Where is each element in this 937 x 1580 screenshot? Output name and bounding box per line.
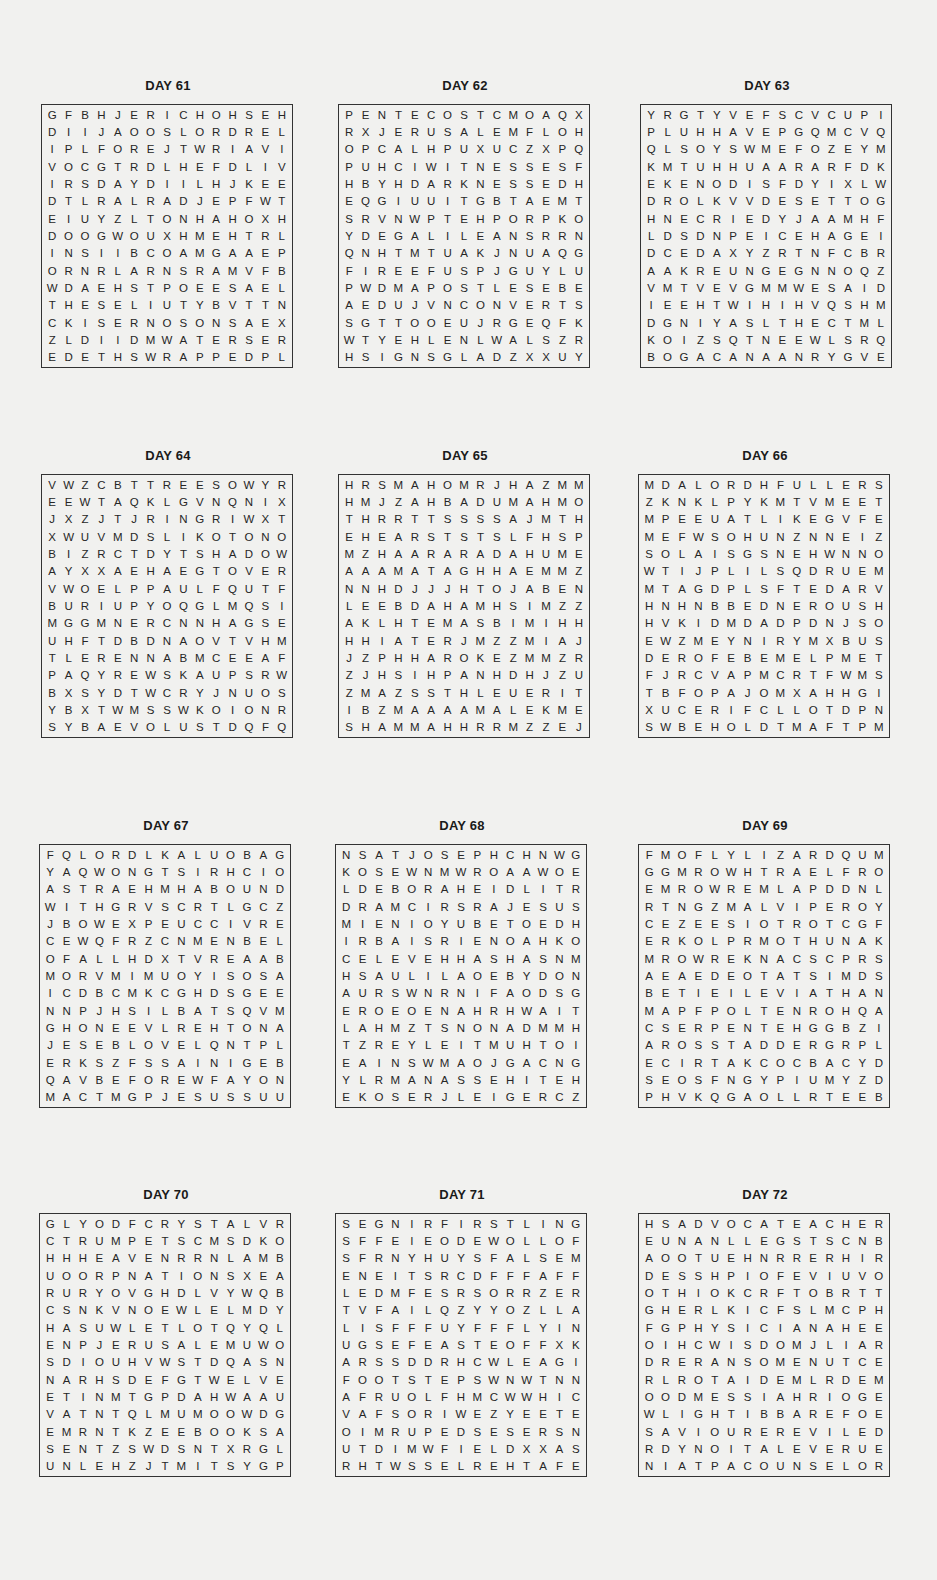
grid-letter: S bbox=[854, 615, 870, 632]
grid-letter: I bbox=[521, 597, 537, 614]
grid-letter: A bbox=[756, 615, 772, 632]
grid-letter: P bbox=[674, 1319, 690, 1336]
grid-letter: Q bbox=[206, 1037, 222, 1054]
grid-letter: N bbox=[871, 985, 887, 1002]
grid-letter: T bbox=[756, 1002, 772, 1019]
grid-letter: J bbox=[489, 262, 505, 279]
grid-letter: R bbox=[436, 933, 452, 950]
grid-letter: G bbox=[239, 1054, 255, 1071]
grid-letter: A bbox=[159, 193, 175, 210]
grid-letter: E bbox=[805, 511, 821, 528]
grid-letter: U bbox=[42, 1458, 58, 1475]
grid-letter: L bbox=[124, 1319, 140, 1336]
grid-letter: N bbox=[568, 1319, 584, 1336]
grid-letter: S bbox=[469, 1071, 485, 1088]
grid-letter: S bbox=[453, 898, 469, 915]
grid-letter: P bbox=[821, 649, 837, 666]
grid-letter: D bbox=[772, 615, 788, 632]
grid-letter: I bbox=[140, 1002, 156, 1019]
grid-letter: S bbox=[404, 1371, 420, 1388]
grid-letter: D bbox=[224, 123, 240, 140]
grid-letter: B bbox=[371, 933, 387, 950]
grid-letter: F bbox=[157, 1371, 173, 1388]
grid-letter: N bbox=[821, 615, 837, 632]
grid-letter: O bbox=[75, 1267, 91, 1284]
grid-letter: O bbox=[690, 649, 706, 666]
grid-letter: T bbox=[222, 1019, 238, 1036]
grid-letter: M bbox=[390, 701, 406, 718]
grid-letter: I bbox=[44, 245, 60, 262]
grid-letter: T bbox=[571, 193, 587, 210]
grid-letter: E bbox=[821, 898, 837, 915]
grid-letter: R bbox=[472, 719, 488, 736]
grid-letter: T bbox=[657, 563, 673, 580]
grid-letter: W bbox=[657, 719, 673, 736]
grid-letter: M bbox=[657, 881, 673, 898]
grid-letter: W bbox=[486, 1354, 502, 1371]
grid-letter: Z bbox=[521, 141, 537, 158]
grid-letter: L bbox=[838, 1458, 854, 1475]
grid-letter: B bbox=[272, 950, 288, 967]
grid-letter: H bbox=[489, 563, 505, 580]
grid-letter: S bbox=[805, 1458, 821, 1475]
grid-letter: H bbox=[502, 950, 518, 967]
grid-letter: V bbox=[674, 1089, 690, 1106]
grid-letter: E bbox=[374, 227, 390, 244]
grid-letter: J bbox=[486, 1054, 502, 1071]
grid-letter: F bbox=[502, 1267, 518, 1284]
grid-letter: T bbox=[58, 1232, 74, 1249]
grid-letter: D bbox=[502, 881, 518, 898]
grid-letter: P bbox=[140, 915, 156, 932]
grid-letter: M bbox=[856, 314, 872, 331]
grid-letter: E bbox=[791, 331, 807, 348]
grid-letter: S bbox=[707, 528, 723, 545]
grid-letter: W bbox=[108, 1319, 124, 1336]
grid-letter: K bbox=[472, 245, 488, 262]
grid-letter: L bbox=[338, 1019, 354, 1036]
grid-letter: O bbox=[641, 1284, 657, 1301]
grid-letter: Y bbox=[453, 1250, 469, 1267]
grid-letter: O bbox=[502, 1232, 518, 1249]
grid-letter: P bbox=[423, 279, 439, 296]
grid-letter: K bbox=[643, 158, 659, 175]
grid-letter: P bbox=[723, 1267, 739, 1284]
grid-letter: S bbox=[255, 1354, 271, 1371]
grid-letter: V bbox=[354, 1302, 370, 1319]
grid-letter: E bbox=[486, 1071, 502, 1088]
grid-letter: N bbox=[60, 245, 76, 262]
grid-letter: Q bbox=[823, 297, 839, 314]
grid-letter: G bbox=[93, 158, 109, 175]
grid-letter: V bbox=[42, 1406, 58, 1423]
grid-letter: E bbox=[257, 245, 273, 262]
grid-letter: O bbox=[239, 1019, 255, 1036]
grid-letter: O bbox=[551, 967, 567, 984]
grid-letter: A bbox=[58, 1089, 74, 1106]
grid-letter: E bbox=[873, 349, 889, 366]
grid-letter: I bbox=[173, 1267, 189, 1284]
grid-letter: R bbox=[371, 985, 387, 1002]
grid-letter: I bbox=[554, 684, 570, 701]
grid-letter: T bbox=[126, 476, 142, 493]
grid-letter: U bbox=[571, 262, 587, 279]
grid-letter: F bbox=[840, 158, 856, 175]
grid-letter: N bbox=[505, 245, 521, 262]
grid-letter: A bbox=[387, 933, 403, 950]
grid-letter: V bbox=[44, 476, 60, 493]
grid-letter: M bbox=[407, 245, 423, 262]
grid-letter: U bbox=[821, 933, 837, 950]
grid-letter: X bbox=[538, 349, 554, 366]
grid-letter: S bbox=[439, 511, 455, 528]
grid-letter: U bbox=[436, 1319, 452, 1336]
grid-letter: E bbox=[436, 1423, 452, 1440]
grid-letter: P bbox=[274, 245, 290, 262]
grid-letter: H bbox=[821, 684, 837, 701]
grid-letter: M bbox=[190, 933, 206, 950]
grid-letter: R bbox=[110, 667, 126, 684]
grid-letter: S bbox=[469, 1423, 485, 1440]
grid-letter: E bbox=[108, 915, 124, 932]
grid-letter: A bbox=[423, 597, 439, 614]
grid-letter: E bbox=[641, 632, 657, 649]
grid-letter: A bbox=[758, 158, 774, 175]
grid-letter: E bbox=[521, 701, 537, 718]
grid-letter: A bbox=[108, 881, 124, 898]
